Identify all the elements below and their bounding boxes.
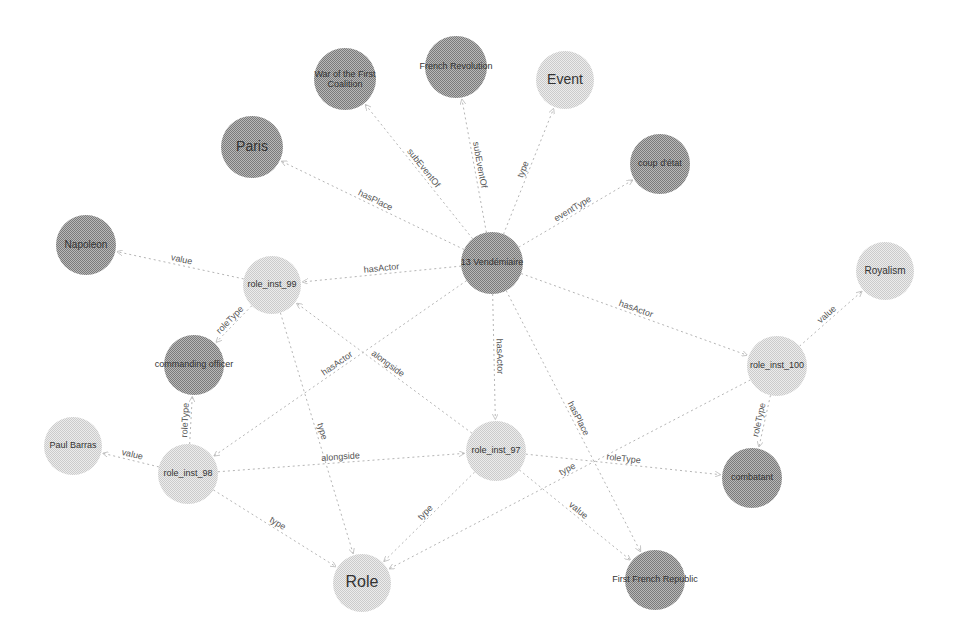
edge-label: type (416, 503, 435, 522)
edge-type[interactable]: type (384, 472, 475, 561)
edge-value[interactable]: value (519, 470, 630, 560)
node-label: Role (346, 573, 379, 590)
edge-hasactor[interactable]: hasActor (303, 261, 461, 282)
edge-label: type (515, 160, 531, 180)
edge-line[interactable] (282, 161, 464, 249)
edge-value[interactable]: value (800, 291, 862, 346)
edge-type[interactable]: type (503, 109, 553, 234)
node-combatant[interactable]: combatant (722, 448, 782, 508)
edge-label: hasActor (495, 339, 506, 375)
node-label: role_inst_97 (471, 445, 520, 455)
edge-label: type (268, 514, 288, 532)
node-frrev[interactable]: French Revolution (419, 36, 492, 98)
edge-hasactor[interactable]: hasActor (521, 274, 747, 356)
edge-type[interactable]: type (280, 313, 353, 554)
node-event[interactable]: Event (536, 51, 594, 109)
edge-roletype[interactable]: roleType (179, 397, 192, 444)
edge-label: hasPlace (566, 400, 592, 438)
edge-hasactor[interactable]: hasActor (493, 294, 506, 419)
node-royalism[interactable]: Royalism (856, 242, 914, 300)
edge-label: type (557, 461, 577, 478)
edge-line[interactable] (214, 281, 466, 456)
node-cmdoff[interactable]: commanding officer (155, 335, 233, 395)
node-ri97[interactable]: role_inst_97 (466, 421, 526, 481)
edge-label: eventType (552, 194, 593, 224)
node-label: First French Republic (612, 574, 698, 584)
edge-line[interactable] (384, 472, 475, 561)
edge-line[interactable] (213, 490, 335, 567)
edge-line[interactable] (366, 105, 473, 239)
edge-hasactor[interactable]: hasActor (214, 281, 466, 456)
node-label: role_inst_98 (163, 468, 212, 478)
node-label: French Revolution (419, 61, 492, 71)
node-label: combatant (731, 472, 774, 482)
edge-label: type (315, 422, 329, 441)
node-label: Royalism (864, 265, 905, 276)
node-label: Event (547, 71, 583, 87)
node-ffr[interactable]: First French Republic (612, 550, 698, 610)
edge-label: value (121, 447, 144, 462)
edge-label: hasActor (363, 261, 399, 274)
node-barras[interactable]: Paul Barras (44, 417, 102, 475)
edge-label: hasPlace (357, 187, 395, 212)
edge-label: roleType (179, 403, 191, 438)
edge-label: alongside (370, 348, 407, 379)
edge-value[interactable]: value (117, 252, 243, 279)
node-coup[interactable]: coup d'état (630, 134, 690, 194)
edge-roletype[interactable]: roleType (526, 452, 720, 475)
node-ri99[interactable]: role_inst_99 (243, 256, 301, 314)
edge-line[interactable] (503, 109, 553, 234)
node-role[interactable]: Role (333, 554, 391, 612)
edge-line[interactable] (519, 470, 630, 560)
edge-line[interactable] (519, 180, 633, 247)
edge-subeventof[interactable]: subEventOf (462, 99, 489, 232)
node-war[interactable]: War of the FirstCoalition (314, 48, 376, 110)
edge-label: value (170, 252, 193, 266)
edge-label: subEventOf (471, 141, 489, 190)
edge-label: hasActor (320, 349, 355, 377)
edge-alongside[interactable]: alongside (218, 450, 464, 472)
edge-type[interactable]: type (213, 490, 335, 567)
node-napoleon[interactable]: Napoleon (56, 215, 116, 275)
edge-label: hasActor (618, 298, 655, 319)
edge-subeventof[interactable]: subEventOf (366, 105, 473, 239)
node-label: role_inst_99 (247, 279, 296, 289)
node-label: 13 Vendémiaire (461, 257, 524, 267)
node-label: Paul Barras (49, 440, 97, 450)
edge-label: roleType (214, 304, 245, 336)
node-label: role_inst_100 (750, 360, 804, 370)
edge-roletype[interactable]: roleType (750, 395, 770, 446)
edge-line[interactable] (521, 274, 747, 356)
node-center[interactable]: 13 Vendémiaire (461, 232, 524, 294)
edge-hasplace[interactable]: hasPlace (282, 161, 464, 249)
edge-line[interactable] (493, 294, 496, 419)
node-label: coup d'état (638, 158, 682, 168)
edge-roletype[interactable]: roleType (214, 304, 252, 342)
edge-eventtype[interactable]: eventType (519, 180, 633, 247)
node-label: commanding officer (155, 359, 233, 369)
node-ri98[interactable]: role_inst_98 (158, 444, 218, 504)
edge-value[interactable]: value (103, 447, 159, 467)
nodes-layer: 13 VendémiaireWar of the FirstCoalitionF… (44, 36, 914, 612)
knowledge-graph[interactable]: subEventOfsubEventOftypeeventTypehasPlac… (0, 0, 957, 636)
node-label: Napoleon (65, 239, 108, 250)
node-ri100[interactable]: role_inst_100 (747, 336, 807, 396)
node-paris[interactable]: Paris (221, 116, 283, 178)
node-label: Paris (236, 138, 268, 154)
edge-label: subEventOf (405, 147, 442, 190)
edge-line[interactable] (800, 291, 862, 346)
edge-line[interactable] (280, 313, 353, 554)
